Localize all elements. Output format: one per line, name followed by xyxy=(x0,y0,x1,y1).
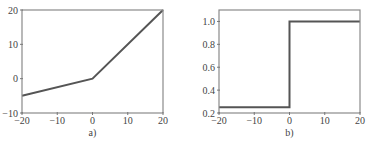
x-tick-label: 0 xyxy=(90,115,95,126)
x-tick-label: 10 xyxy=(320,115,330,126)
y-tick-label: 0.6 xyxy=(203,62,216,73)
y-tick-label: 1.0 xyxy=(203,16,216,27)
x-tick-label: −20 xyxy=(211,115,227,126)
x-tick-label: −10 xyxy=(49,115,65,126)
x-tick-label: 20 xyxy=(158,115,168,126)
chart-b: 0.20.40.60.81.0−20−1001020b) xyxy=(203,10,366,139)
y-tick-label: 10 xyxy=(8,39,18,50)
y-tick-label: 0.8 xyxy=(203,39,216,50)
y-tick-label: 0.4 xyxy=(203,85,216,96)
x-tick-label: 20 xyxy=(355,115,365,126)
data-series-line xyxy=(22,10,163,96)
x-tick-label: 10 xyxy=(123,115,133,126)
x-tick-label: −10 xyxy=(246,115,262,126)
chart-caption: b) xyxy=(285,127,293,139)
y-tick-label: 0 xyxy=(13,73,18,84)
plot-frame xyxy=(22,10,163,113)
x-tick-label: −20 xyxy=(14,115,30,126)
y-tick-label: 20 xyxy=(8,5,18,16)
charts-canvas: −1001020−20−1001020a)0.20.40.60.81.0−20−… xyxy=(0,0,367,151)
x-tick-label: 0 xyxy=(287,115,292,126)
data-series-line xyxy=(219,21,360,107)
chart-caption: a) xyxy=(89,127,97,139)
chart-a: −1001020−20−1001020a) xyxy=(2,5,168,140)
